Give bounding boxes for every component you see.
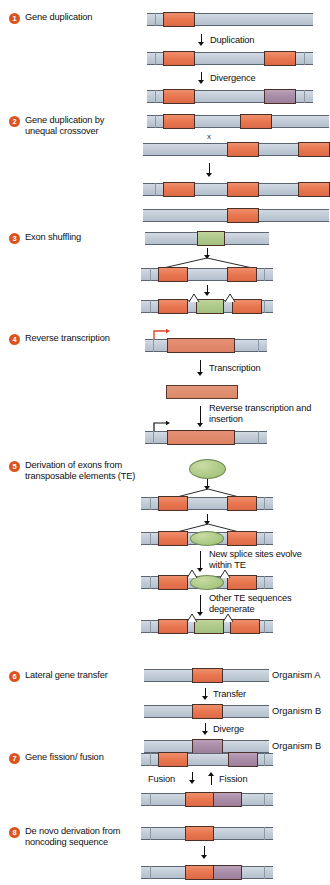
dna-tick	[264, 753, 265, 766]
step-arrow-shuffle	[203, 285, 212, 297]
gene-segment-red-exon	[227, 267, 257, 282]
crossover-x-mark: x	[207, 133, 211, 141]
mechanism-3-label-text: Exon shuffling	[25, 232, 81, 243]
gene-segment-red-exon	[230, 619, 260, 634]
dna-tick	[153, 431, 154, 444]
splice-peak-icon	[186, 613, 198, 622]
dna-tick	[150, 753, 151, 766]
dna-strand-fused	[141, 793, 273, 806]
dna-tick	[304, 52, 305, 65]
gene-segment-purple	[228, 752, 258, 767]
step-arrow-divergence	[197, 72, 206, 85]
mechanism-5-label: 5 Derivation of exons from transposable …	[9, 460, 137, 483]
step-arrow-reverse-transcription	[196, 406, 205, 428]
step-arrow-transcription	[196, 360, 205, 377]
dna-tick	[264, 497, 265, 510]
mechanism-4-number: 4	[9, 334, 20, 345]
dna-tick	[150, 268, 151, 281]
promoter-arrow-icon	[153, 421, 171, 430]
step-arrow-crossover	[205, 163, 214, 178]
dna-strand	[145, 431, 267, 444]
dna-tick	[150, 300, 151, 313]
gene-segment-red	[227, 208, 259, 223]
step-caption-fusion: Fusion	[148, 774, 175, 785]
gene-segment-red	[185, 865, 214, 880]
dna-tick	[150, 576, 151, 589]
dna-strand	[143, 209, 329, 222]
transposable-element-icon	[189, 459, 226, 479]
gene-segment-green-exon	[196, 299, 224, 314]
dna-tick	[153, 339, 154, 352]
gene-segment-red	[185, 826, 214, 841]
promoter-arrow-icon	[153, 329, 171, 338]
gene-segment-red-retrocopy	[167, 430, 235, 445]
step-caption-new-splice-sites: New splice sites evolve within TE	[209, 549, 319, 571]
dna-tick	[150, 497, 151, 510]
dna-strand	[147, 115, 329, 128]
mechanism-5-number: 5	[9, 461, 20, 472]
gene-segment-red-exon	[227, 531, 257, 546]
dna-tick	[150, 866, 151, 879]
mechanism-6: 6 Lateral gene transfer Organism A Trans…	[0, 652, 329, 747]
gene-segment-red	[185, 792, 214, 807]
step-caption-diverge: Diverge	[213, 724, 244, 735]
organism-label-b: Organism B	[272, 706, 321, 717]
step-caption-transcription: Transcription	[209, 363, 260, 374]
dna-tick	[155, 183, 156, 196]
mechanism-1-label-text: Gene duplication	[25, 12, 92, 23]
organism-label-a: Organism A	[272, 670, 321, 681]
mechanism-3-number: 3	[9, 233, 20, 244]
dna-strand	[147, 90, 313, 103]
dna-strand-organism-a	[144, 669, 269, 682]
gene-segment-red-exon	[232, 299, 262, 314]
dna-tick	[264, 866, 265, 879]
gene-segment-red	[298, 142, 330, 157]
step-caption-te-degenerate: Other TE sequences degenerate	[209, 593, 321, 615]
dna-strand-donor	[145, 232, 269, 245]
splice-peak-icon	[186, 569, 198, 578]
dna-strand-noncoding	[141, 827, 273, 840]
dna-strand	[147, 13, 313, 26]
step-arrow-fusion	[188, 772, 197, 785]
splice-peak-icon	[224, 293, 236, 302]
gene-segment-red-exon	[158, 619, 188, 634]
dna-tick	[150, 532, 151, 545]
gene-segment-red	[192, 704, 223, 719]
organism-label-b-diverged: Organism B	[272, 741, 321, 752]
dna-tick	[264, 268, 265, 281]
dna-tick	[155, 115, 156, 128]
gene-segment-red	[163, 114, 195, 129]
gene-segment-red-exon	[158, 575, 188, 590]
gene-segment-red-exon	[158, 496, 188, 511]
gene-segment-red	[227, 182, 259, 197]
gene-segment-red-exon	[158, 531, 188, 546]
dna-strand	[141, 620, 273, 633]
mechanism-7-label-text: Gene fission/ fusion	[25, 752, 104, 763]
step-caption-divergence: Divergence	[210, 73, 256, 84]
gene-segment-red-exon	[158, 299, 188, 314]
dna-strand-organism-b	[144, 705, 269, 718]
step-caption-transfer: Transfer	[213, 689, 246, 700]
dna-tick	[304, 90, 305, 103]
gene-segment-red-exon	[158, 267, 188, 282]
mrna-transcript-bar	[166, 385, 238, 399]
gene-segment-red	[192, 668, 223, 683]
dna-tick	[264, 532, 265, 545]
dna-strand-recipient	[141, 268, 273, 281]
dna-strand	[143, 183, 329, 196]
dna-strand	[141, 753, 273, 766]
gene-segment-purple-de-novo	[213, 865, 242, 880]
gene-segment-green-exon	[197, 231, 225, 246]
mechanism-5-label-text: Derivation of exons from transposable el…	[25, 460, 137, 483]
dna-strand-de-novo-gene	[141, 866, 273, 879]
gene-segment-purple-diverged	[264, 89, 296, 104]
mechanism-6-label: 6 Lateral gene transfer	[9, 670, 137, 682]
dna-tick	[264, 793, 265, 806]
dna-tick	[155, 90, 156, 103]
transposable-element-icon	[190, 531, 224, 546]
gene-segment-red	[227, 142, 259, 157]
dna-tick	[150, 620, 151, 633]
dna-strand	[143, 143, 329, 156]
dna-tick	[155, 13, 156, 26]
